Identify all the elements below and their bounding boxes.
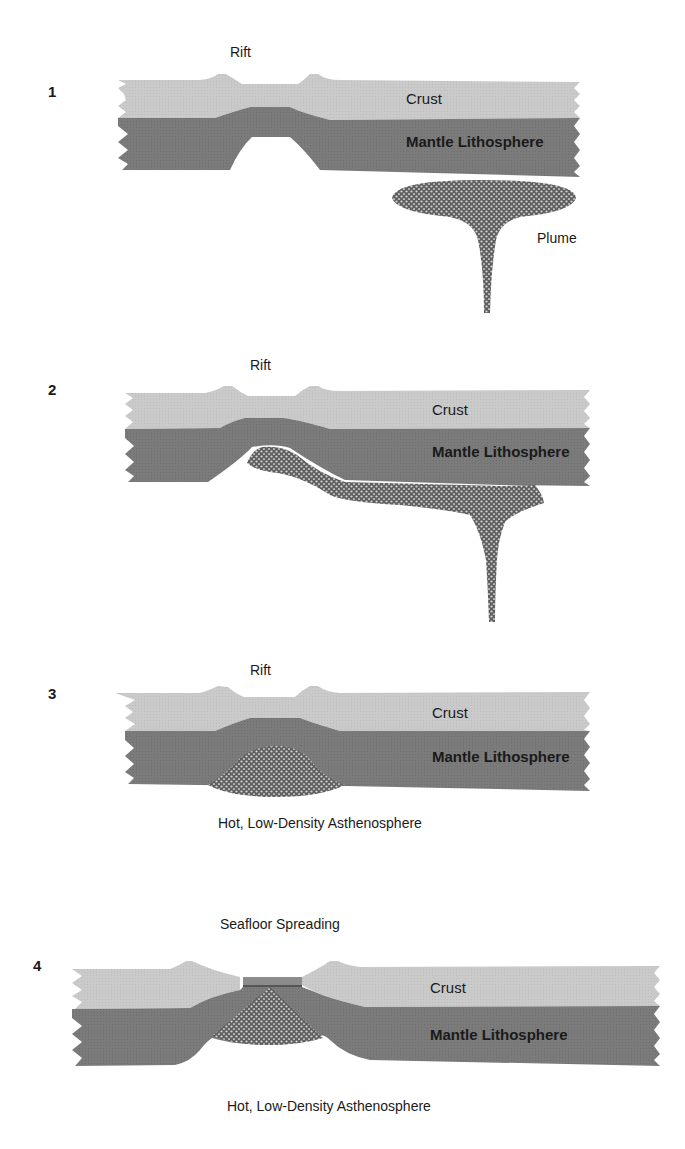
oceanic-crust-strip: [243, 977, 302, 986]
rift-label: Rift: [250, 662, 271, 678]
mantle-lithosphere-label: Mantle Lithosphere: [432, 748, 570, 765]
mantle-lithosphere-label: Mantle Lithosphere: [432, 443, 570, 460]
rift-label: Rift: [250, 357, 271, 373]
panel-1: 1 Rift Crust Mantle Lithosphere Plume: [48, 44, 580, 313]
panel-number: 4: [33, 957, 42, 974]
panel-number: 2: [48, 381, 56, 398]
crust-label: Crust: [432, 401, 469, 418]
panel-2: 2 Rift Crust Mantle Lithosphere: [48, 357, 590, 622]
crust-layer: [118, 74, 580, 120]
crust-layer: [125, 386, 590, 429]
panel-3: 3 Rift Crust Mantle Lithosphere Hot, Low…: [48, 662, 590, 831]
panel-number: 3: [48, 685, 56, 702]
crust-label: Crust: [432, 704, 469, 721]
panel-number: 1: [48, 83, 56, 100]
crust-layer: [115, 686, 590, 731]
asthenosphere-label: Hot, Low-Density Asthenosphere: [218, 815, 422, 831]
mantle-lithosphere-label: Mantle Lithosphere: [406, 133, 544, 150]
mantle-lithosphere-label: Mantle Lithosphere: [430, 1026, 568, 1043]
crust-layer-right: [302, 961, 660, 1007]
rift-label: Rift: [230, 44, 251, 60]
seafloor-spreading-label: Seafloor Spreading: [220, 916, 340, 932]
plume-label: Plume: [537, 230, 577, 246]
rifting-diagram: 1 Rift Crust Mantle Lithosphere Plume 2 …: [0, 0, 685, 1149]
plume-shape: [392, 180, 576, 313]
oceanic-crust-line: [243, 985, 302, 987]
crust-label: Crust: [430, 979, 467, 996]
crust-label: Crust: [406, 90, 443, 107]
panel-4: 4 Seafloor Spreading Crust Mantle Lithos…: [33, 916, 660, 1114]
asthenosphere-label: Hot, Low-Density Asthenosphere: [227, 1098, 431, 1114]
